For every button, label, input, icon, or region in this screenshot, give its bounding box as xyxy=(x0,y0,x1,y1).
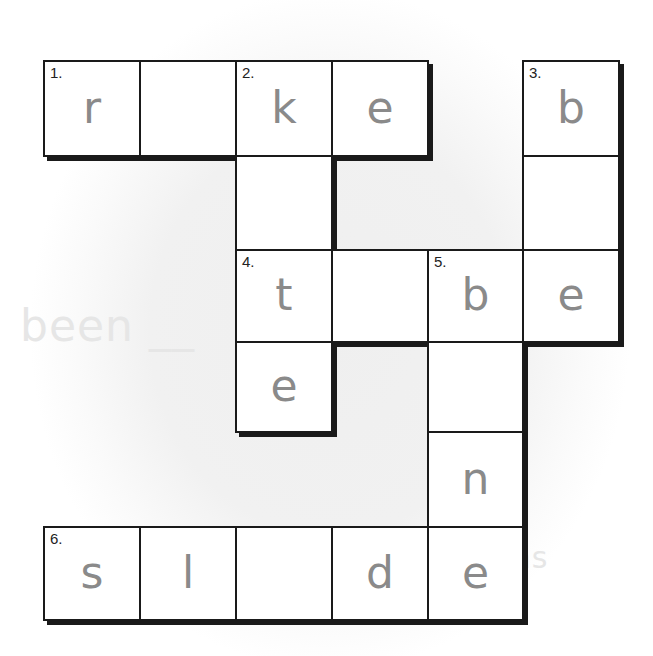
cell-letter: b xyxy=(524,86,618,130)
crossword-cell-r2-c3[interactable] xyxy=(331,249,429,343)
crossword-cell-r1-c2[interactable] xyxy=(235,155,333,251)
cell-letter: e xyxy=(429,551,522,595)
crossword-cell-r4-c4[interactable]: n xyxy=(427,431,524,528)
clue-number: 4. xyxy=(242,254,255,269)
cell-letter: l xyxy=(141,551,235,595)
crossword-cell-r5-c0[interactable]: 6.s xyxy=(43,526,141,621)
crossword-cell-r0-c0[interactable]: 1.r xyxy=(43,60,141,157)
clue-number: 2. xyxy=(242,65,255,80)
crossword-cell-r2-c4[interactable]: 5.b xyxy=(427,249,524,343)
clue-number: 5. xyxy=(434,254,447,269)
crossword-cell-r5-c4[interactable]: e xyxy=(427,526,524,621)
crossword-cell-r0-c5[interactable]: 3.b xyxy=(522,60,620,157)
crossword-cell-r5-c2[interactable] xyxy=(235,526,333,621)
crossword-cell-r0-c3[interactable]: e xyxy=(331,60,429,157)
cell-letter: s xyxy=(45,551,139,595)
crossword-cell-r0-c2[interactable]: 2.k xyxy=(235,60,333,157)
crossword-cell-r2-c2[interactable]: 4.t xyxy=(235,249,333,343)
cell-letter: e xyxy=(333,86,427,130)
crossword-cell-r5-c1[interactable]: l xyxy=(139,526,237,621)
cell-letter: k xyxy=(237,86,331,130)
cell-letter: t xyxy=(237,273,331,317)
cell-letter: b xyxy=(429,273,522,317)
crossword-cell-r3-c2[interactable]: e xyxy=(235,341,333,433)
cell-letter: e xyxy=(524,273,618,317)
cell-letter: n xyxy=(429,457,522,501)
crossword-grid: 1.r2.ke3.b4.t5.been6.slde xyxy=(0,0,653,656)
crossword-cell-r1-c5[interactable] xyxy=(522,155,620,251)
cell-letter: r xyxy=(45,86,139,130)
crossword-cell-r5-c3[interactable]: d xyxy=(331,526,429,621)
cell-letter: d xyxy=(333,551,427,595)
crossword-cell-r3-c4[interactable] xyxy=(427,341,524,433)
crossword-cell-r0-c1[interactable] xyxy=(139,60,237,157)
clue-number: 6. xyxy=(50,531,63,546)
crossword-cell-r2-c5[interactable]: e xyxy=(522,249,620,343)
clue-number: 1. xyxy=(50,65,63,80)
cell-letter: e xyxy=(237,364,331,408)
clue-number: 3. xyxy=(529,65,542,80)
